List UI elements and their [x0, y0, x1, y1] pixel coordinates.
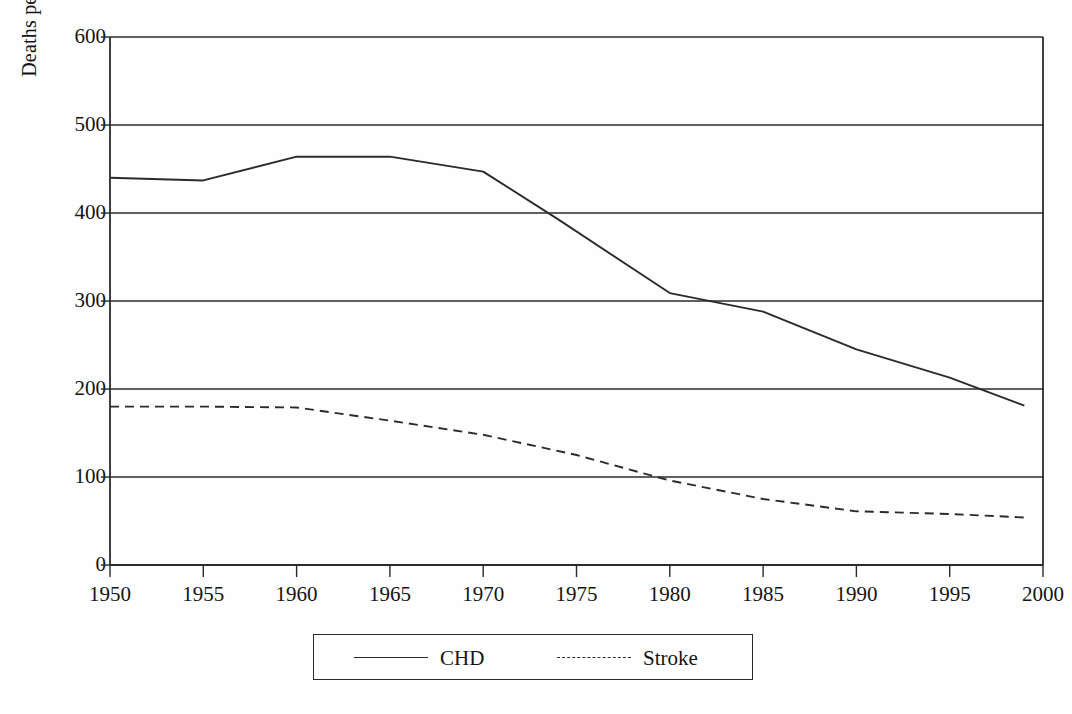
x-tick-label-2000: 2000 — [998, 583, 1072, 605]
legend-item-stroke: Stroke — [557, 635, 698, 681]
x-axis-tick-labels: 1950195519601965197019751980198519901995… — [0, 0, 1072, 714]
x-tick-label-1960: 1960 — [252, 583, 342, 605]
legend-label-stroke: Stroke — [643, 646, 698, 671]
legend-line-sample-solid — [354, 651, 428, 665]
chart-figure: Deaths per 100,000 Population 0100200300… — [0, 0, 1072, 714]
x-tick-label-1975: 1975 — [532, 583, 622, 605]
chart-legend: CHD Stroke — [313, 634, 753, 680]
x-tick-label-1950: 1950 — [65, 583, 155, 605]
x-tick-label-1995: 1995 — [905, 583, 995, 605]
legend-item-chd: CHD — [354, 635, 484, 681]
x-tick-label-1980: 1980 — [625, 583, 715, 605]
x-tick-label-1970: 1970 — [438, 583, 528, 605]
legend-label-chd: CHD — [440, 646, 484, 671]
x-tick-label-1955: 1955 — [158, 583, 248, 605]
x-tick-label-1965: 1965 — [345, 583, 435, 605]
x-tick-label-1985: 1985 — [718, 583, 808, 605]
legend-line-sample-dashed — [557, 651, 631, 665]
x-tick-label-1990: 1990 — [811, 583, 901, 605]
